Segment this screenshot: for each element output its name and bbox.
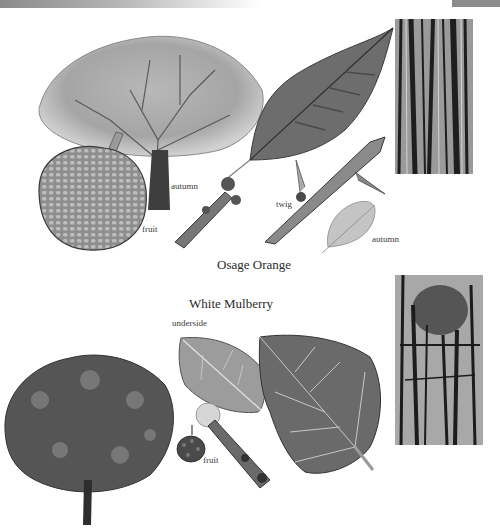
autumn-leaf-label: autumn [372, 234, 399, 244]
twig-label: twig [276, 199, 292, 209]
mulberry-fruit-label: fruit [203, 455, 219, 465]
header-gradient-band [0, 0, 260, 8]
osage-orange-fruit-illustration [34, 130, 154, 255]
osage-orange-title: Osage Orange [217, 257, 291, 273]
osage-orange-autumn-leaf-illustration [320, 195, 380, 255]
white-mulberry-bark-illustration [395, 275, 483, 445]
osage-orange-bark-illustration [395, 19, 473, 174]
white-mulberry-leaf-illustration [255, 332, 385, 477]
white-mulberry-tree-illustration [0, 340, 180, 528]
header-tab [452, 0, 500, 7]
white-mulberry-title: White Mulberry [189, 296, 273, 312]
autumn-tree-label: autumn [171, 181, 198, 191]
fruit-label: fruit [142, 224, 158, 234]
underside-label: underside [172, 318, 207, 328]
